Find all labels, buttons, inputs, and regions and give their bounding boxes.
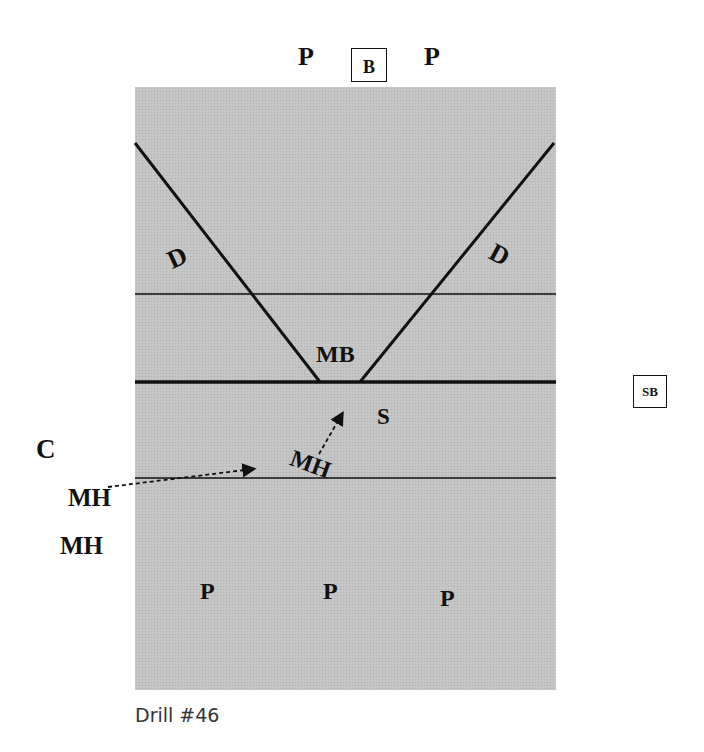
- side-box-label: SB: [642, 384, 658, 400]
- diagonal-right: [360, 143, 554, 382]
- side-box: SB: [633, 375, 667, 408]
- ball-box: B: [351, 48, 387, 82]
- ball-box-label: B: [363, 57, 375, 78]
- player-top-left: P: [298, 44, 314, 70]
- court-lines: [0, 0, 704, 752]
- player-bottom-left: P: [200, 579, 215, 603]
- middle-blocker: MB: [316, 342, 355, 366]
- approach-arrow: [319, 414, 342, 454]
- player-bottom-center: P: [323, 579, 338, 603]
- drill-caption: Drill #46: [135, 704, 219, 726]
- setter: S: [377, 405, 390, 428]
- player-bottom-right: P: [440, 586, 455, 610]
- player-top-right: P: [424, 44, 440, 70]
- diagonal-left: [135, 143, 320, 382]
- coach: C: [36, 436, 56, 463]
- hitter-waiting-2: MH: [60, 533, 103, 558]
- hitter-waiting-1: MH: [68, 485, 111, 510]
